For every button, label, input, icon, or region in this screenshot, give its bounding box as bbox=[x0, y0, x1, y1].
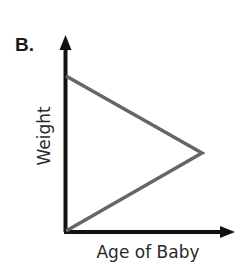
x-axis-arrow-icon bbox=[220, 226, 235, 238]
x-axis-label: Age of Baby bbox=[96, 244, 199, 261]
y-axis-arrow-icon bbox=[60, 35, 72, 50]
data-line bbox=[66, 76, 202, 231]
y-axis-label: Weight bbox=[36, 106, 53, 165]
